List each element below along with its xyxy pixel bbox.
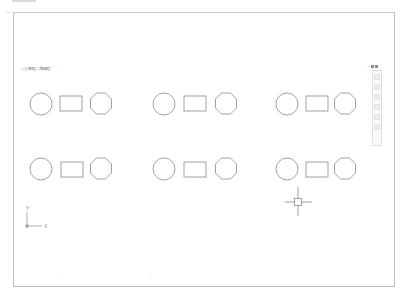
circle-shape[interactable] (276, 158, 298, 180)
shape-group-r2c1[interactable] (30, 158, 112, 180)
rectangle-shape[interactable] (184, 162, 206, 177)
circle-shape[interactable] (153, 158, 175, 180)
octagon-shape[interactable] (335, 93, 356, 114)
drawing-canvas[interactable]: Y X (0, 0, 404, 297)
rectangle-shape[interactable] (306, 96, 328, 111)
speck (149, 276, 150, 277)
octagon-shape[interactable] (91, 93, 112, 114)
ucs-icon (26, 212, 43, 228)
shape-group-r1c2[interactable] (153, 93, 237, 115)
circle-shape[interactable] (30, 93, 52, 115)
circle-shape[interactable] (153, 93, 175, 115)
octagon-shape[interactable] (216, 93, 237, 114)
ucs-x-label: X (44, 223, 48, 229)
crosshair-cursor-icon (285, 187, 312, 216)
octagon-shape[interactable] (216, 158, 237, 179)
octagon-shape[interactable] (91, 158, 112, 179)
octagon-shape[interactable] (335, 158, 356, 179)
shape-group-r2c3[interactable] (276, 158, 356, 180)
ucs-y-label: Y (25, 205, 30, 211)
speck (58, 275, 59, 276)
rectangle-shape[interactable] (306, 162, 328, 177)
circle-shape[interactable] (30, 158, 52, 180)
shape-group-r1c3[interactable] (276, 93, 356, 115)
shape-group-r2c2[interactable] (153, 158, 237, 180)
rectangle-shape[interactable] (61, 162, 83, 177)
circle-shape[interactable] (276, 93, 298, 115)
rectangle-shape[interactable] (184, 96, 206, 111)
rectangle-shape[interactable] (60, 96, 82, 111)
shape-group-r1c1[interactable] (30, 93, 112, 115)
